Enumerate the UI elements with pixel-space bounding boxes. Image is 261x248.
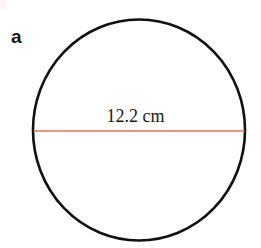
geometry-figure-canvas: a 12.2 cm [0, 0, 261, 248]
diameter-measurement-label: 12.2 cm [0, 106, 261, 126]
circle-outline [33, 20, 245, 241]
